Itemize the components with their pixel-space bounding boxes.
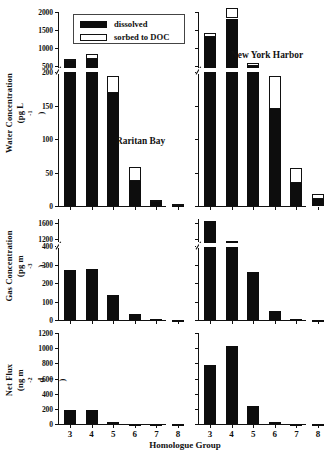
water-right-bar-8-sorbed bbox=[312, 194, 324, 199]
flux-right-bar-4 bbox=[226, 346, 238, 424]
water-right-bar-8-dissolved bbox=[312, 199, 324, 206]
flux-left-xtick-label: 3 bbox=[68, 429, 73, 439]
flux-right-xtick-label: 4 bbox=[229, 429, 234, 439]
flux-left-y-axis bbox=[58, 333, 59, 424]
water-left-bar-5-dissolved bbox=[107, 93, 119, 206]
water-left-tick bbox=[55, 12, 58, 13]
gas-left-tick-label: 0 bbox=[49, 316, 53, 325]
gas-left-tick bbox=[55, 223, 58, 224]
flux-left-tick-label: 600 bbox=[42, 374, 53, 383]
flux-left-xtick-label: 8 bbox=[176, 429, 181, 439]
water-left-tick bbox=[55, 48, 58, 49]
flux-left-tick-label: 0 bbox=[49, 420, 53, 429]
flux-left-xtick bbox=[113, 425, 114, 428]
flux-left-xtick bbox=[178, 425, 179, 428]
water-right-tick bbox=[195, 106, 198, 107]
flux-right-tick bbox=[195, 424, 198, 425]
water-right-bar-6-sorbed bbox=[269, 76, 281, 108]
flux-right-tick bbox=[195, 394, 198, 395]
gas-left-xtick bbox=[92, 321, 93, 324]
flux-right-bar-3 bbox=[204, 365, 216, 424]
legend-item-sorbed: sorbed to DOC bbox=[80, 32, 169, 42]
gas-right-xtick bbox=[318, 321, 319, 324]
water-right-tick bbox=[195, 139, 198, 140]
water-left-xtick bbox=[70, 207, 71, 210]
flux-left-tick-label: 1000 bbox=[38, 344, 53, 353]
gas-left-tick-label: 100 bbox=[42, 297, 53, 306]
gas-left-xtick bbox=[178, 321, 179, 324]
water-left-tick bbox=[55, 106, 58, 107]
flux-left-xtick bbox=[92, 425, 93, 428]
gas-left-xtick bbox=[156, 321, 157, 324]
water-left-tick-label: 100 bbox=[42, 135, 53, 144]
flux-left-tick bbox=[55, 379, 58, 380]
water-right-tick bbox=[195, 30, 198, 31]
water-left-bar-6-sorbed bbox=[129, 167, 141, 181]
water-left-tick-label: 0 bbox=[49, 202, 53, 211]
flux-left-tick bbox=[55, 363, 58, 364]
flux-right-tick bbox=[195, 409, 198, 410]
site-label-left: Raritan Bay bbox=[116, 136, 165, 146]
flux-left-bar-3 bbox=[64, 410, 76, 424]
flux-right-xtick-label: 5 bbox=[251, 429, 256, 439]
water-left-xtick bbox=[92, 207, 93, 210]
water-right-tick bbox=[195, 173, 198, 174]
water-left-tick-label: 1500 bbox=[38, 26, 53, 35]
gas-left-tick bbox=[55, 302, 58, 303]
water-left-tick bbox=[55, 139, 58, 140]
gas-left-bar-5 bbox=[107, 295, 119, 320]
water-right-bar-7-dissolved bbox=[290, 183, 302, 206]
gas-left-bar-3 bbox=[64, 270, 76, 320]
flux-right-tick bbox=[195, 379, 198, 380]
water-right-tick bbox=[195, 206, 198, 207]
flux-left-tick bbox=[55, 424, 58, 425]
legend-item-dissolved: dissolved bbox=[80, 19, 147, 29]
water-left-bar-8-sorbed bbox=[172, 204, 184, 206]
water-axis-title-line1: Water Concentration bbox=[4, 38, 15, 188]
gas-right-y-axis bbox=[198, 219, 199, 320]
flux-right-xtick bbox=[210, 425, 211, 428]
flux-right-tick bbox=[195, 363, 198, 364]
water-left-bar-4-sorbed bbox=[86, 54, 98, 59]
water-left-tick-label: 500 bbox=[42, 62, 53, 71]
water-break-gap-1 bbox=[199, 68, 307, 72]
gas-break-gap-1 bbox=[199, 243, 307, 247]
legend-label-dissolved: dissolved bbox=[114, 19, 147, 29]
water-right-tick bbox=[195, 12, 198, 13]
legend-swatch-sorbed bbox=[80, 34, 107, 41]
water-left-bar-7-sorbed bbox=[150, 200, 162, 202]
gas-right-tick bbox=[195, 265, 198, 266]
gas-left-tick bbox=[55, 265, 58, 266]
gas-left-xtick bbox=[113, 321, 114, 324]
water-left-tick-label: 1000 bbox=[38, 44, 53, 53]
water-left-xtick bbox=[135, 207, 136, 210]
flux-left-xtick-label: 6 bbox=[133, 429, 138, 439]
water-right-bar-4-dissolved bbox=[226, 19, 238, 206]
gas-right-tick bbox=[195, 320, 198, 321]
gas-left-bar-4 bbox=[86, 269, 98, 320]
flux-right-xtick-label: 8 bbox=[316, 429, 321, 439]
gas-left-xtick bbox=[135, 321, 136, 324]
legend-label-sorbed: sorbed to DOC bbox=[114, 32, 169, 42]
gas-right-tick bbox=[195, 239, 198, 240]
water-right-bar-7-sorbed bbox=[290, 168, 302, 183]
water-left-tick-label: 50 bbox=[46, 168, 53, 177]
water-left-tick-label: 150 bbox=[42, 101, 53, 110]
gas-right-tick bbox=[195, 223, 198, 224]
flux-right-xtick bbox=[253, 425, 254, 428]
water-right-bar-5-sorbed bbox=[247, 63, 259, 66]
flux-right-y-axis bbox=[198, 333, 199, 424]
gas-right-bar-6 bbox=[269, 311, 281, 320]
water-left-tick bbox=[55, 173, 58, 174]
water-right-xtick bbox=[318, 207, 319, 210]
flux-left-xtick bbox=[135, 425, 136, 428]
figure-root: Water Concentration(pg L-1)Gas Concentra… bbox=[0, 0, 332, 459]
water-left-tick bbox=[55, 30, 58, 31]
flux-right-xtick bbox=[275, 425, 276, 428]
water-break-gap-0 bbox=[59, 68, 167, 72]
gas-right-bar-3 bbox=[204, 221, 216, 320]
flux-left-tick-label: 400 bbox=[42, 389, 53, 398]
flux-right-bar-5 bbox=[247, 406, 259, 424]
gas-left-tick-label: 200 bbox=[42, 279, 53, 288]
gas-right-xtick bbox=[253, 321, 254, 324]
